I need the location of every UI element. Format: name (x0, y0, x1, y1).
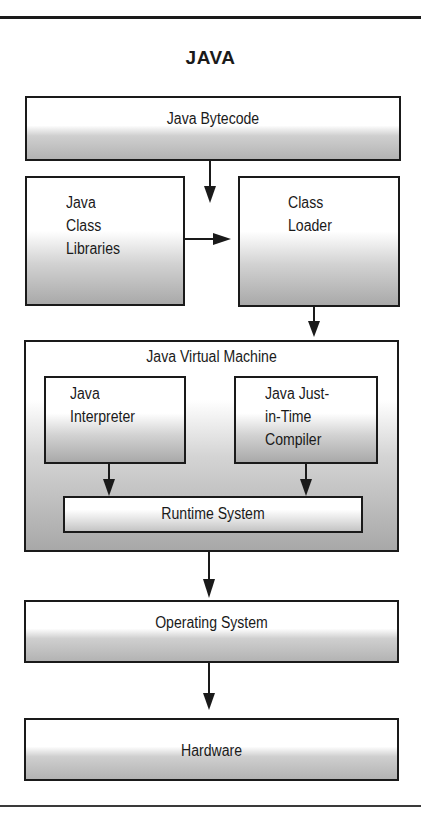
node-label-line: Interpreter (70, 405, 135, 428)
node-java-interpreter: Java Interpreter (44, 376, 186, 464)
node-label: Runtime System (83, 505, 343, 523)
node-runtime-system: Runtime System (63, 496, 363, 533)
node-hardware: Hardware (24, 718, 399, 781)
node-label-line: Compiler (265, 428, 329, 451)
arrow-jvm-to-os-icon (203, 552, 215, 598)
node-label: Java Virtual Machine (48, 348, 374, 366)
node-label-line: in-Time (265, 405, 329, 428)
bottom-rule (0, 805, 421, 807)
node-label: Hardware (48, 742, 374, 760)
node-label-line: Java (66, 191, 120, 214)
arrow-loader-to-jvm-icon (308, 307, 320, 337)
arrow-bytecode-down-icon (204, 161, 216, 203)
node-label-line: Libraries (66, 237, 120, 260)
node-label-line: Class (288, 191, 332, 214)
node-java-bytecode: Java Bytecode (25, 96, 401, 161)
node-label-line: Java (70, 382, 135, 405)
node-operating-system: Operating System (24, 600, 399, 663)
node-label: Java Bytecode (49, 110, 376, 128)
arrow-libraries-to-loader-icon (185, 233, 231, 245)
node-label-line: Java Just- (265, 382, 329, 405)
node-java-class-libraries: Java Class Libraries (25, 176, 185, 306)
node-class-loader: Class Loader (238, 176, 400, 307)
diagram-title: JAVA (0, 47, 421, 69)
top-rule (0, 16, 421, 19)
node-label-line: Loader (288, 214, 332, 237)
node-java-jit-compiler: Java Just- in-Time Compiler (234, 376, 378, 464)
node-label: Operating System (48, 614, 374, 632)
arrow-os-to-hardware-icon (203, 663, 215, 710)
node-label-line: Class (66, 214, 120, 237)
